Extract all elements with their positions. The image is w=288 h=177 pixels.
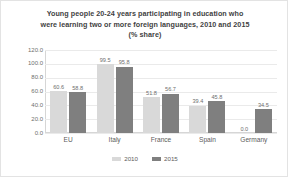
bar-rect[interactable] bbox=[69, 92, 86, 133]
legend-item-2015[interactable]: 2015 bbox=[152, 155, 178, 162]
bar-group-eu: 60.658.8 bbox=[45, 50, 91, 133]
bar-spain-2015[interactable]: 45.8 bbox=[208, 50, 225, 133]
bar-rect[interactable] bbox=[255, 109, 272, 133]
x-axis-tick-germany: Germany bbox=[231, 136, 277, 143]
legend-swatch-icon bbox=[152, 157, 161, 161]
x-axis-tick-italy: Italy bbox=[91, 136, 137, 143]
x-axis-tick-eu: EU bbox=[45, 136, 91, 143]
bar-value-label: 0.0 bbox=[240, 126, 248, 132]
bar-group-italy: 99.595.8 bbox=[91, 50, 137, 133]
y-axis-tick-labels: 120.0100.080.060.040.020.00.0 bbox=[17, 45, 43, 138]
legend-item-2010[interactable]: 2010 bbox=[112, 155, 138, 162]
bar-value-label: 60.6 bbox=[53, 84, 64, 90]
bar-value-label: 58.8 bbox=[72, 85, 83, 91]
bar-rect[interactable] bbox=[97, 64, 114, 133]
legend-swatch-icon bbox=[112, 157, 121, 161]
y-axis-tick-2: 80.0 bbox=[31, 74, 43, 81]
bar-rect[interactable] bbox=[50, 91, 67, 133]
chart-legend: 20102015 bbox=[1, 155, 288, 162]
chart-title-line-2: were learning two or more foreign langua… bbox=[23, 20, 267, 31]
bar-germany-2010[interactable]: 0.0 bbox=[236, 50, 253, 133]
x-axis-tick-france: France bbox=[138, 136, 184, 143]
legend-label: 2010 bbox=[124, 155, 138, 162]
bar-eu-2010[interactable]: 60.6 bbox=[50, 50, 67, 133]
y-axis-tick-3: 60.0 bbox=[31, 88, 43, 95]
bar-value-label: 95.8 bbox=[119, 59, 130, 65]
y-axis-tick-1: 100.0 bbox=[28, 60, 43, 67]
bar-group-spain: 39.445.8 bbox=[184, 50, 230, 133]
chart-title-line-1: Young people 20-24 years participating i… bbox=[23, 9, 267, 20]
bar-rect[interactable] bbox=[208, 101, 225, 133]
bar-groups: 60.658.899.595.851.856.739.445.80.034.5 bbox=[45, 50, 277, 133]
bar-rect[interactable] bbox=[162, 94, 179, 133]
bar-france-2010[interactable]: 51.8 bbox=[143, 50, 160, 133]
y-axis-tick-0: 120.0 bbox=[28, 47, 43, 54]
bar-group-germany: 0.034.5 bbox=[231, 50, 277, 133]
bar-value-label: 39.4 bbox=[192, 98, 203, 104]
y-axis-tick-5: 20.0 bbox=[31, 116, 43, 123]
bar-value-label: 99.5 bbox=[100, 57, 111, 63]
bar-value-label: 45.8 bbox=[211, 94, 222, 100]
bar-france-2015[interactable]: 56.7 bbox=[162, 50, 179, 133]
bar-italy-2015[interactable]: 95.8 bbox=[116, 50, 133, 133]
bar-group-france: 51.856.7 bbox=[138, 50, 184, 133]
chart-container: Young people 20-24 years participating i… bbox=[0, 0, 288, 177]
bar-value-label: 56.7 bbox=[165, 86, 176, 92]
x-axis-tick-spain: Spain bbox=[184, 136, 230, 143]
bar-eu-2015[interactable]: 58.8 bbox=[69, 50, 86, 133]
y-axis-tick-4: 40.0 bbox=[31, 102, 43, 109]
y-axis-tick-6: 0.0 bbox=[35, 130, 43, 137]
bar-germany-2015[interactable]: 34.5 bbox=[255, 50, 272, 133]
bar-rect[interactable] bbox=[116, 67, 133, 133]
bar-rect[interactable] bbox=[189, 106, 206, 133]
chart-title: Young people 20-24 years participating i… bbox=[23, 9, 267, 41]
bar-value-label: 34.5 bbox=[258, 102, 269, 108]
chart-title-line-3: (% share) bbox=[23, 30, 267, 41]
bar-value-label: 51.8 bbox=[146, 90, 157, 96]
bar-spain-2010[interactable]: 39.4 bbox=[189, 50, 206, 133]
x-axis-tick-labels: EUItalyFranceSpainGermany bbox=[45, 136, 277, 143]
gridline-6 bbox=[45, 133, 277, 134]
bar-italy-2010[interactable]: 99.5 bbox=[97, 50, 114, 133]
bar-rect[interactable] bbox=[143, 97, 160, 133]
legend-label: 2015 bbox=[164, 155, 178, 162]
